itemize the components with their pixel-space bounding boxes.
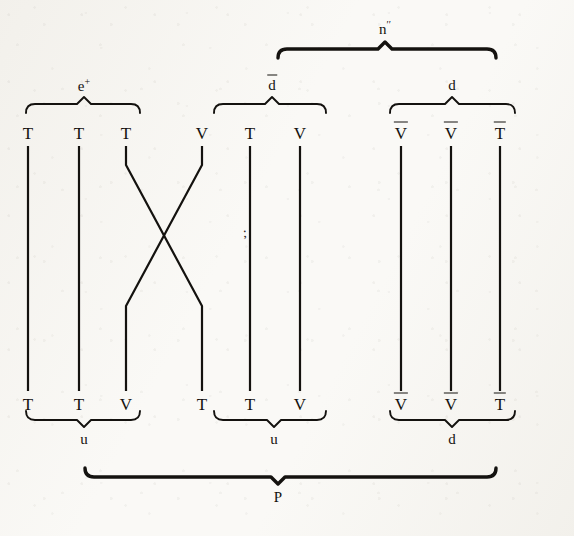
brace-d-bar xyxy=(214,97,326,113)
bottom-node-label-c1: T xyxy=(23,396,33,413)
top-node-label-c7: V xyxy=(395,125,407,142)
brace-u-left-label: u xyxy=(80,432,88,447)
brace-e-plus xyxy=(26,97,140,113)
brace-n-double-prime xyxy=(278,42,496,58)
bottom-node-label-c9: T xyxy=(495,396,505,413)
brace-n-double-prime-label: n′′ xyxy=(379,20,391,37)
bottom-node-label-c4: T xyxy=(197,396,207,413)
bottom-node-label-c6: V xyxy=(294,396,306,413)
bottom-node-label-c2: T xyxy=(74,396,84,413)
brace-d-label: d xyxy=(448,78,456,93)
world-line-c4 xyxy=(126,146,202,391)
brace-P-label: P xyxy=(274,490,282,505)
brace-P xyxy=(85,468,496,484)
figure-canvas: e+ddn′′uudPTTTTTVVTTTVVVVVVTT ; xyxy=(0,0,574,536)
bottom-node-label-c8: V xyxy=(445,396,457,413)
top-node-label-c5: T xyxy=(245,125,255,142)
brace-e-plus-label: e+ xyxy=(78,77,90,94)
bottom-node-label-c3: V xyxy=(120,396,132,413)
top-node-label-c8: V xyxy=(445,125,457,142)
world-line-c3 xyxy=(126,146,202,391)
top-node-label-c6: V xyxy=(294,125,306,142)
bottom-node-label-c7: V xyxy=(395,396,407,413)
brace-d xyxy=(390,97,515,113)
top-node-label-c3: T xyxy=(121,125,131,142)
brace-d-bar-label: d xyxy=(268,78,276,93)
brace-u-middle xyxy=(214,411,326,427)
brace-u-middle-label: u xyxy=(270,432,278,447)
top-node-label-c4: V xyxy=(196,125,208,142)
top-node-label-c9: T xyxy=(495,125,505,142)
bottom-node-label-c5: T xyxy=(245,396,255,413)
top-node-label-c2: T xyxy=(74,125,84,142)
top-node-label-c1: T xyxy=(23,125,33,142)
brace-d-right-label: d xyxy=(448,432,456,447)
